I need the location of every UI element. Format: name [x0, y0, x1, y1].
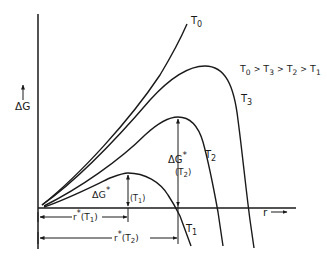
curve-label-t2: T2 [204, 149, 216, 163]
curve-label-t0: T0 [190, 15, 202, 29]
r-star-t2-label: r*(T2) [114, 230, 139, 245]
curve-t0 [42, 24, 187, 205]
temperature-ordering: T0 > T3 > T2 > T1 [239, 63, 321, 77]
nucleation-free-energy-diagram: ΔG r T0 T3 T2 T1 T0 > T3 > T2 > T1 ΔG* (… [0, 0, 327, 258]
delta-g-star-t2-sub: (T2) [175, 167, 191, 179]
delta-g-star-t1-sub: (T1) [130, 194, 145, 205]
delta-g-star-t1-label: ΔG* [92, 185, 110, 200]
y-axis-label: ΔG [15, 100, 30, 112]
x-axis-label: r [263, 206, 268, 218]
r-star-t1-label: r*(T1) [73, 209, 98, 224]
curve-label-t3: T3 [240, 93, 252, 107]
